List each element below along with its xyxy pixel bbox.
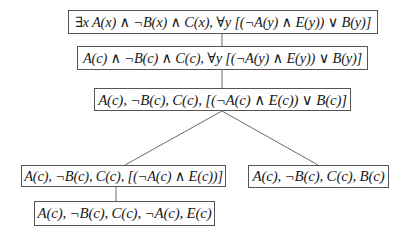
node-instantiated-formula: A(c) ∧ ¬B(c) ∧ C(c), ∀y [(¬A(y) ∧ E(y)) … [77,46,368,70]
edge-n3-n5 [222,111,318,165]
node-right-branch: A(c), ¬B(c), C(c), B(c) [248,165,389,188]
node-conjunction-split: A(c), ¬B(c), C(c), [(¬A(c) ∧ E(c)) ∨ B(c… [94,88,351,111]
edge-n3-n4 [125,111,222,165]
node-left-leaf: A(c), ¬B(c), C(c), ¬A(c), E(c) [34,201,215,226]
node-label: A(c) ∧ ¬B(c) ∧ C(c), ∀y [(¬A(y) ∧ E(y)) … [83,50,362,67]
node-label: A(c), ¬B(c), C(c), [(¬A(c) ∧ E(c)) ∨ B(c… [98,91,347,109]
node-label: ∃x A(x) ∧ ¬B(x) ∧ C(x), ∀y [(¬A(y) ∧ E(y… [75,14,371,31]
node-label: A(c), ¬B(c), C(c), [(¬A(c) ∧ E(c))] [24,168,223,185]
node-label: A(c), ¬B(c), C(c), ¬A(c), E(c) [37,205,211,222]
node-label: A(c), ¬B(c), C(c), B(c) [252,168,384,185]
node-left-branch: A(c), ¬B(c), C(c), [(¬A(c) ∧ E(c))] [21,165,226,187]
node-root-formula: ∃x A(x) ∧ ¬B(x) ∧ C(x), ∀y [(¬A(y) ∧ E(y… [68,10,378,34]
